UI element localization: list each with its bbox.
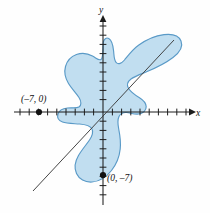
shaded-region [58,34,182,182]
x-axis-arrow-icon [189,109,196,116]
point-label-neg7-0: (–7, 0) [21,94,46,105]
y-axis-label: y [98,5,104,15]
point-label-0-neg7: (0, –7) [107,173,132,184]
point-marker-0-neg7 [100,172,106,178]
point-marker-neg7-0 [36,109,42,115]
y-axis-arrow-icon [100,15,107,22]
figure-container: x y (–7, 0) (0, –7) [0,0,210,213]
graph-canvas: x y (–7, 0) (0, –7) [0,0,210,213]
x-axis-label: x [195,108,201,118]
